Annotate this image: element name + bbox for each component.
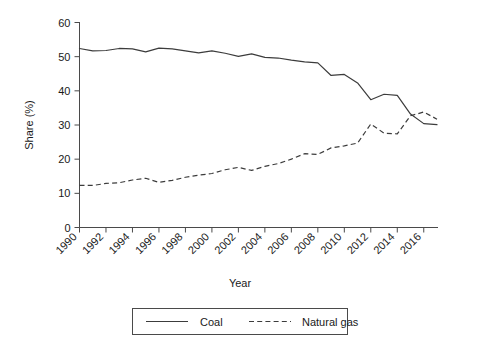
y-tick-group: 0102030405060 (58, 17, 79, 234)
legend-label-natural-gas: Natural gas (302, 316, 359, 328)
y-tick-label: 10 (58, 187, 70, 199)
x-tick-label: 1994 (106, 230, 132, 256)
x-tick-label: 1998 (159, 230, 185, 256)
y-axis-group: 0102030405060 Share (%) (23, 17, 80, 234)
y-tick-label: 40 (58, 85, 70, 97)
series-line-coal (80, 48, 438, 125)
y-axis-title: Share (%) (23, 100, 35, 150)
x-axis-group: 1990199219941996199820002002200420062008… (53, 228, 438, 290)
x-tick-label: 2010 (318, 230, 344, 256)
x-tick-group: 1990199219941996199820002002200420062008… (53, 228, 424, 257)
y-tick-label: 30 (58, 119, 70, 131)
x-tick-label: 2008 (291, 230, 317, 256)
series-group (80, 48, 438, 185)
y-tick-label: 20 (58, 153, 70, 165)
x-tick-label: 2012 (344, 230, 370, 256)
x-tick-label: 1990 (53, 230, 79, 256)
x-tick-label: 2014 (371, 230, 397, 256)
x-tick-label: 1992 (80, 230, 106, 256)
y-tick-label: 60 (58, 17, 70, 29)
legend-label-coal: Coal (200, 316, 223, 328)
x-tick-label: 2004 (238, 230, 264, 256)
x-tick-label: 2000 (186, 230, 212, 256)
x-tick-label: 2006 (265, 230, 291, 256)
chart-container: 0102030405060 Share (%) 1990199219941996… (0, 0, 482, 351)
y-tick-label: 50 (58, 51, 70, 63)
x-axis-title: Year (229, 277, 252, 289)
x-tick-label: 2016 (397, 230, 423, 256)
x-tick-label: 1996 (133, 230, 159, 256)
x-tick-label: 2002 (212, 230, 238, 256)
line-chart: 0102030405060 Share (%) 1990199219941996… (0, 0, 482, 351)
series-line-natural-gas (80, 112, 438, 185)
legend: Coal Natural gas (133, 309, 359, 335)
